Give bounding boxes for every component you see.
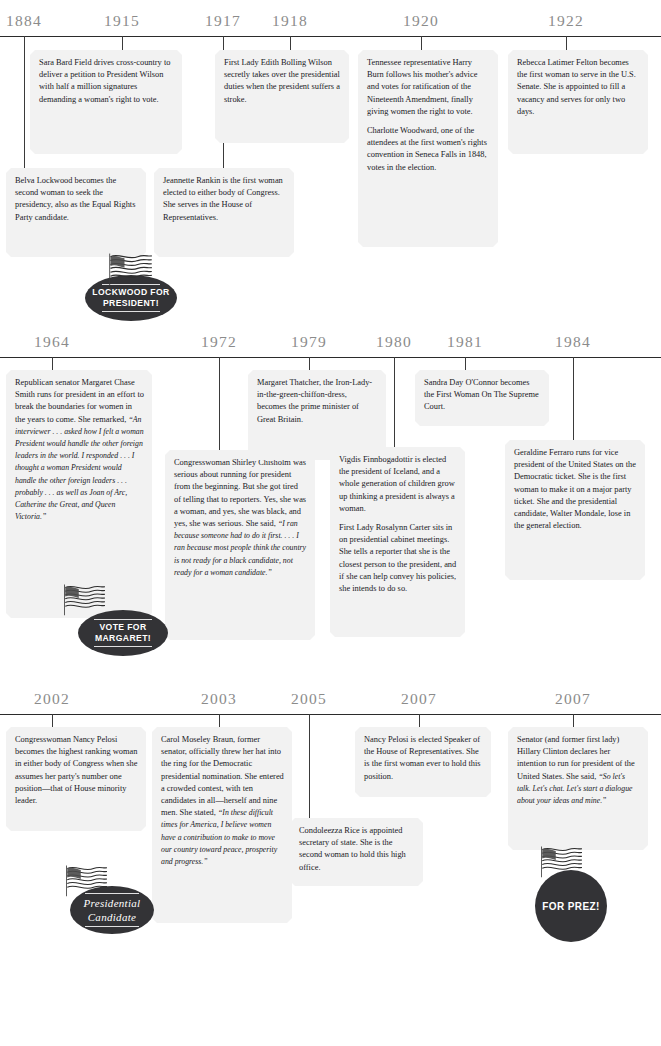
note-paragraph: Sara Bard Field drives cross-country to …: [39, 57, 174, 106]
year-label: 1922: [548, 12, 584, 30]
us-flag-icon: [105, 252, 155, 288]
note-paragraph: Geraldine Ferraro runs for vice presiden…: [514, 447, 637, 532]
note-paragraph: Republican senator Margaret Chase Smith …: [15, 377, 144, 523]
timeline-axis: [0, 36, 661, 37]
tick-1918: [290, 36, 291, 50]
badge-line-1: VOTE FOR: [99, 622, 146, 633]
year-label: 1972: [201, 333, 237, 351]
tick-2002: [52, 714, 53, 727]
year-label: 1980: [376, 333, 412, 351]
tick-2005: [309, 714, 310, 818]
tick-1981: [465, 357, 466, 370]
badge-line-1: FOR PREZ!: [542, 901, 600, 912]
badge-line-2: MARGARET!: [95, 633, 151, 644]
note-paragraph: Tennessee representative Harry Burn foll…: [367, 57, 490, 118]
tick-1915: [122, 36, 123, 50]
note-jeannette-rankin: Jeannette Rankin is the first woman elec…: [154, 168, 294, 257]
year-label: 1884: [6, 12, 42, 30]
note-paragraph: Senator (and former first lady) Hillary …: [517, 734, 640, 807]
note-margaret-chase-smith: Republican senator Margaret Chase Smith …: [6, 370, 152, 618]
year-label: 1964: [34, 333, 70, 351]
note-harry-burn: Tennessee representative Harry Burn foll…: [358, 50, 498, 247]
tick-1922: [566, 36, 567, 50]
year-label: 1981: [447, 333, 483, 351]
us-flag-icon: [62, 864, 110, 898]
year-label: 1984: [555, 333, 591, 351]
badge-line-2: PRESIDENT!: [103, 298, 159, 309]
note-paragraph: Carol Moseley Braun, former senator, off…: [161, 734, 284, 868]
year-label: 1979: [291, 333, 327, 351]
tick-2003: [219, 714, 220, 727]
badge-line-1: LOCKWOOD FOR: [92, 287, 169, 298]
year-label: 1917: [205, 12, 241, 30]
tick-1920: [421, 36, 422, 50]
timeline-section-2002-2007: 2002 2003 2005 2007 2007 Congresswoman N…: [0, 680, 661, 1046]
year-label: 2002: [34, 690, 70, 708]
note-hillary-clinton: Senator (and former first lady) Hillary …: [508, 727, 648, 850]
note-paragraph: Congresswoman Nancy Pelosi becomes the h…: [15, 734, 138, 807]
note-margaret-thatcher: Margaret Thatcher, the Iron-Lady-in-the-…: [248, 370, 386, 460]
note-paragraph: Charlotte Woodward, one of the attendees…: [367, 125, 490, 174]
timeline-axis: [0, 357, 661, 358]
note-sara-bard-field: Sara Bard Field drives cross-country to …: [30, 50, 182, 154]
year-label: 1915: [104, 12, 140, 30]
note-condoleezza-rice: Condoleezza Rice is appointed secretary …: [290, 818, 423, 886]
note-paragraph: Congresswoman Shirley Chisholm was serio…: [174, 457, 307, 579]
note-rebecca-latimer-felton: Rebecca Latimer Felton becomes the first…: [508, 50, 648, 154]
note-shirley-chisholm: Congresswoman Shirley Chisholm was serio…: [165, 450, 315, 640]
note-paragraph: Condoleezza Rice is appointed secretary …: [299, 825, 415, 874]
note-lead-text: Carol Moseley Braun, former senator, off…: [161, 735, 284, 817]
note-quote-text: “An interviewer . . . asked how I felt a…: [15, 415, 144, 522]
note-sandra-day-oconnor: Sandra Day O'Connor becomes the First Wo…: [415, 370, 549, 426]
note-paragraph: Jeannette Rankin is the first woman elec…: [163, 175, 286, 224]
note-vigdis-finnbogadottir: Vigdis Finnbogadottir is elected the pre…: [330, 447, 465, 637]
note-belva-lockwood: Belva Lockwood becomes the second woman …: [6, 168, 146, 257]
year-label: 2007: [555, 690, 591, 708]
note-geraldine-ferraro: Geraldine Ferraro runs for vice presiden…: [505, 440, 645, 580]
badge-for-prez: FOR PREZ!: [535, 870, 607, 942]
badge-line-1: Presidential: [84, 896, 141, 910]
tick-2007-b: [573, 714, 574, 727]
note-paragraph: Rebecca Latimer Felton becomes the first…: [517, 57, 640, 118]
tick-2007-a: [419, 714, 420, 727]
badge-line-2: Candidate: [88, 910, 137, 924]
tick-1979: [309, 357, 310, 370]
note-lead-text: Republican senator Margaret Chase Smith …: [15, 378, 144, 424]
tick-1884: [24, 36, 25, 168]
timeline-axis: [0, 714, 661, 715]
note-edith-bolling-wilson: First Lady Edith Bolling Wilson secretly…: [215, 50, 349, 143]
note-paragraph: Sandra Day O'Connor becomes the First Wo…: [424, 377, 541, 414]
timeline-section-1884-1922: 1884 1915 1917 1918 1920 1922 Sara Bard …: [0, 0, 661, 325]
note-carol-moseley-braun: Carol Moseley Braun, former senator, off…: [152, 727, 292, 923]
us-flag-icon: [60, 583, 108, 617]
note-paragraph: Vigdis Finnbogadottir is elected the pre…: [339, 454, 457, 515]
year-label: 2005: [291, 690, 327, 708]
note-nancy-pelosi-minority-leader: Congresswoman Nancy Pelosi becomes the h…: [6, 727, 146, 831]
year-label: 1920: [403, 12, 439, 30]
us-flag-icon: [537, 845, 585, 879]
note-nancy-pelosi-speaker: Nancy Pelosi is elected Speaker of the H…: [355, 727, 491, 797]
note-paragraph: Nancy Pelosi is elected Speaker of the H…: [364, 734, 483, 783]
note-paragraph: First Lady Rosalynn Carter sits in on pr…: [339, 522, 457, 595]
note-paragraph: Belva Lockwood becomes the second woman …: [15, 175, 138, 224]
note-paragraph: Margaret Thatcher, the Iron-Lady-in-the-…: [257, 377, 378, 426]
note-paragraph: First Lady Edith Bolling Wilson secretly…: [224, 57, 341, 106]
year-label: 1918: [272, 12, 308, 30]
year-label: 2003: [201, 690, 237, 708]
tick-1964: [52, 357, 53, 370]
note-lead-text: Congresswoman Shirley Chisholm was serio…: [174, 458, 306, 528]
year-label: 2007: [401, 690, 437, 708]
timeline-section-1964-1984: 1964 1972 1979 1980 1981 1984 Republican…: [0, 325, 661, 680]
